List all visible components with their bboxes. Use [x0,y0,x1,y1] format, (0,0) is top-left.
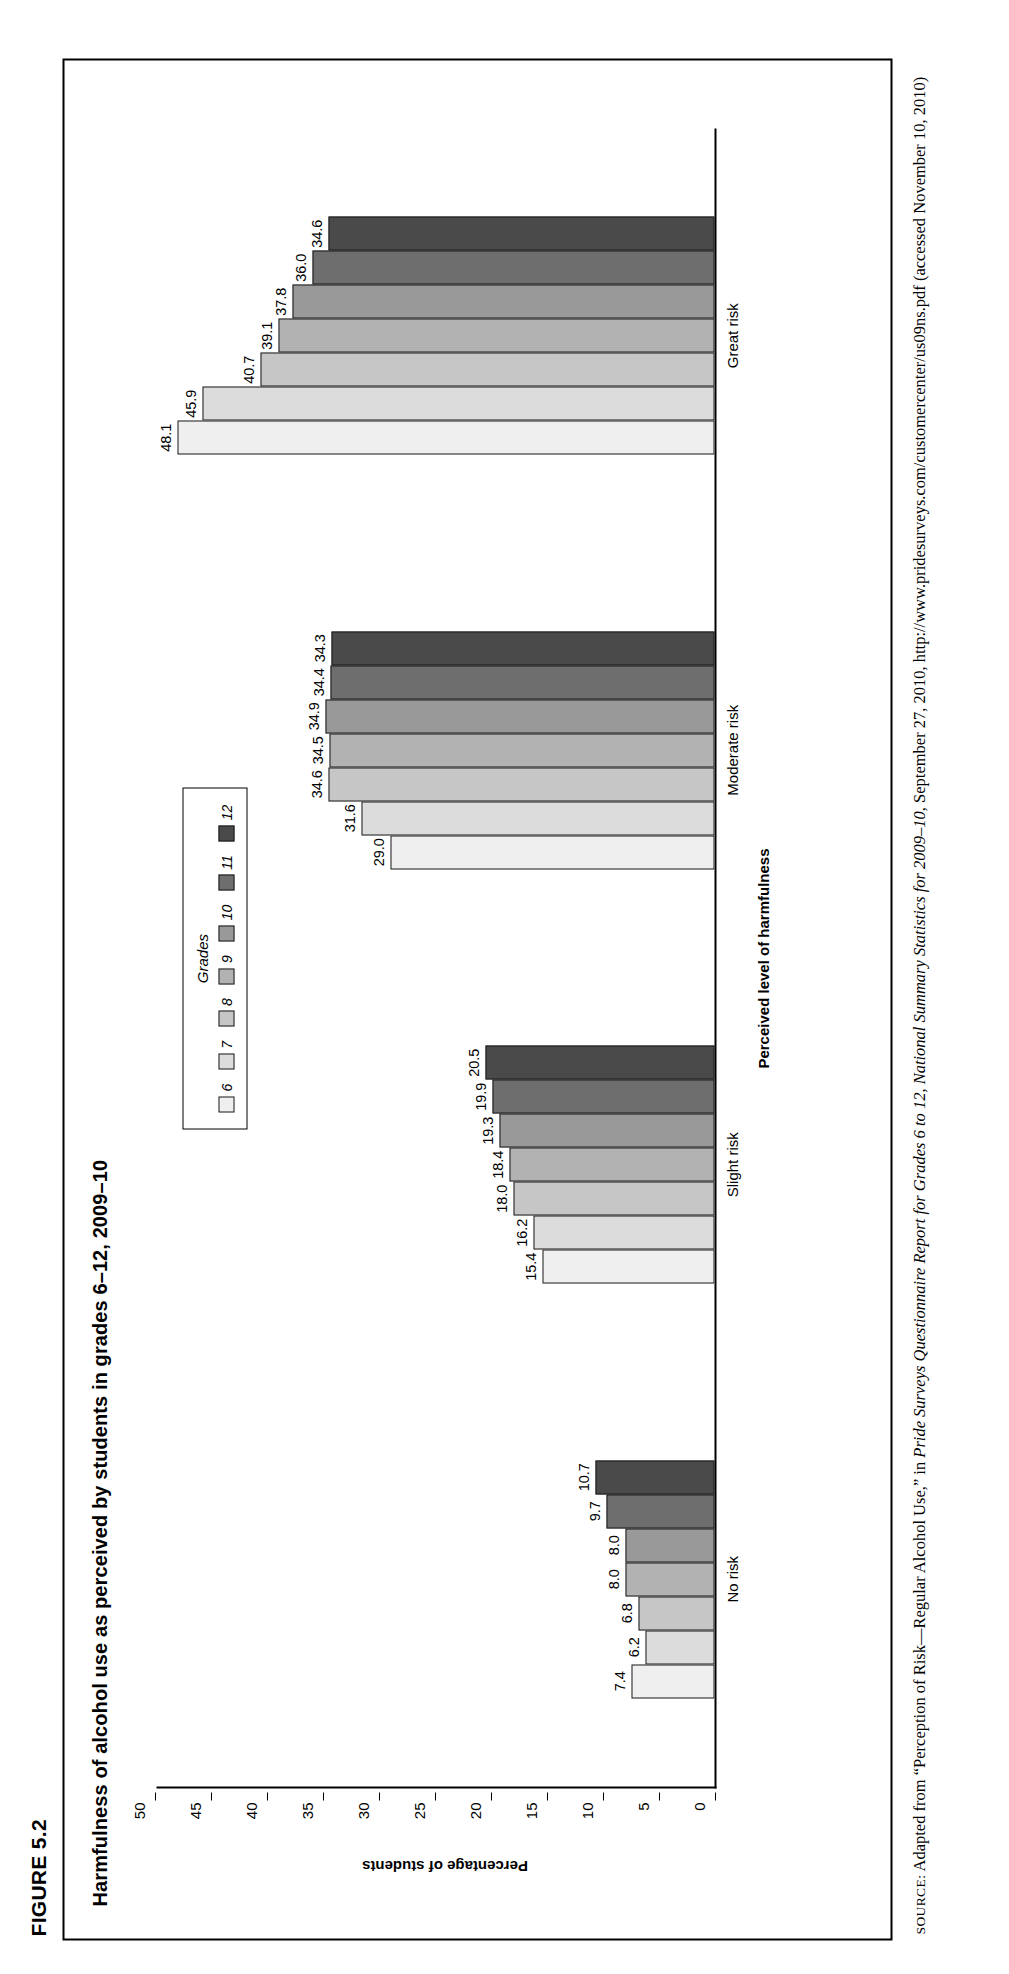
bar[interactable]: 19.3 [499,1113,714,1147]
bar[interactable]: 36.0 [312,250,714,284]
y-tick-label: 25 [411,1802,428,1842]
x-group-label: Great risk [723,303,740,368]
bar[interactable]: 15.4 [542,1249,714,1283]
bar-slot: 37.8 [156,284,714,318]
rotated-figure-wrapper: FIGURE 5.2 Harmfulness of alcohol use as… [0,0,1009,1974]
bar-slot: 8.0 [156,1528,714,1562]
bar-value-label: 15.4 [522,1252,538,1280]
bar-slot: 34.5 [156,733,714,767]
y-tick-mark [715,1792,716,1800]
x-group-label: Moderate risk [723,704,740,795]
bar-value-label: 16.2 [513,1218,529,1246]
bar[interactable]: 7.4 [631,1664,714,1698]
bar[interactable]: 8.0 [625,1528,714,1562]
y-tick-mark [659,1792,660,1800]
bar[interactable]: 16.2 [533,1215,714,1249]
bar-value-label: 7.4 [611,1671,627,1691]
bar-slot: 19.9 [156,1079,714,1113]
figure-frame: Harmfulness of alcohol use as perceived … [62,58,892,1940]
y-tick-label: 15 [523,1802,540,1842]
bar[interactable]: 6.2 [645,1630,714,1664]
bar[interactable]: 39.1 [278,318,714,352]
bar-group-bars: 7.46.26.88.08.09.710.7 [156,1460,714,1698]
bar[interactable]: 29.0 [390,835,714,869]
bar-value-label: 48.1 [157,423,173,451]
y-tick-mark [267,1792,268,1800]
bar-slot: 40.7 [156,352,714,386]
bar-group-bars: 15.416.218.018.419.319.920.5 [156,1045,714,1283]
bar[interactable]: 34.6 [328,767,714,801]
bar[interactable]: 20.5 [485,1045,714,1079]
bar[interactable]: 34.3 [331,631,714,665]
bar[interactable]: 6.8 [638,1596,714,1630]
bar[interactable]: 40.7 [260,352,714,386]
bar[interactable]: 34.5 [329,733,714,767]
bar-value-label: 31.6 [341,804,357,832]
bar-slot: 20.5 [156,1045,714,1079]
plot-area: Percentage of students 05101520253035404… [156,128,716,1788]
bar-slot: 31.6 [156,801,714,835]
bar-value-label: 20.5 [465,1048,481,1076]
bar-slot: 18.0 [156,1181,714,1215]
bar-slot: 39.1 [156,318,714,352]
bar-group: 7.46.26.88.08.09.710.7No risk [156,1372,714,1787]
bar[interactable]: 48.1 [177,420,714,454]
y-tick-label: 10 [579,1802,596,1842]
bar-value-label: 9.7 [586,1501,602,1521]
y-tick-label: 30 [355,1802,372,1842]
bar-slot: 34.3 [156,631,714,665]
y-tick-mark [603,1792,604,1800]
y-tick-mark [155,1792,156,1800]
bar[interactable]: 34.9 [325,699,714,733]
y-tick-mark [547,1792,548,1800]
bar[interactable]: 34.4 [330,665,714,699]
bar-slot: 6.2 [156,1630,714,1664]
figure-container: FIGURE 5.2 Harmfulness of alcohol use as… [0,0,1009,1974]
bar-value-label: 6.2 [625,1637,641,1657]
bar-value-label: 34.9 [305,702,321,730]
bar-value-label: 34.6 [308,770,324,798]
bar-group: 15.416.218.018.419.319.920.5Slight risk [156,957,714,1372]
y-tick-mark [435,1792,436,1800]
bar[interactable]: 37.8 [292,284,714,318]
bar[interactable]: 9.7 [606,1494,714,1528]
bar-slot: 15.4 [156,1249,714,1283]
y-tick-mark [379,1792,380,1800]
bar-slot: 18.4 [156,1147,714,1181]
figure-title: Harmfulness of alcohol use as perceived … [88,86,111,1906]
figure-number: FIGURE 5.2 [26,30,50,1936]
bar-value-label: 40.7 [240,355,256,383]
source-label: SOURCE: [912,1874,927,1934]
bar-value-label: 19.3 [479,1116,495,1144]
bar[interactable]: 34.6 [328,216,714,250]
bar[interactable]: 45.9 [202,386,714,420]
source-text-2: , September 27, 2010, http://www.pridesu… [909,76,928,810]
y-tick-label: 0 [691,1802,708,1842]
bar[interactable]: 18.4 [509,1147,714,1181]
bar-value-label: 18.0 [493,1184,509,1212]
bar-slot: 34.9 [156,699,714,733]
x-group-label: No risk [723,1555,740,1602]
bar[interactable]: 8.0 [625,1562,714,1596]
x-axis-title: Perceived level of harmfulness [754,128,771,1788]
bar-slot: 48.1 [156,420,714,454]
y-tick-label: 35 [299,1802,316,1842]
bar[interactable]: 19.9 [492,1079,714,1113]
bar[interactable]: 31.6 [361,801,714,835]
bar[interactable]: 10.7 [595,1460,714,1494]
bar-value-label: 39.1 [258,321,274,349]
bar-group-bars: 48.145.940.739.137.836.034.6 [156,216,714,454]
bar-group: 48.145.940.739.137.836.034.6Great risk [156,128,714,543]
bar-slot: 19.3 [156,1113,714,1147]
bar-value-label: 18.4 [489,1150,505,1178]
bar-group-bars: 29.031.634.634.534.934.434.3 [156,631,714,869]
source-note: SOURCE: Adapted from “Perception of Risk… [906,64,932,1934]
y-axis-title: Percentage of students [295,1858,595,1875]
y-tick-label: 40 [243,1802,260,1842]
bar-slot: 8.0 [156,1562,714,1596]
y-tick-mark [211,1792,212,1800]
bar-slot: 7.4 [156,1664,714,1698]
bar[interactable]: 18.0 [513,1181,714,1215]
y-tick-mark [491,1792,492,1800]
y-tick-label: 50 [131,1802,148,1842]
